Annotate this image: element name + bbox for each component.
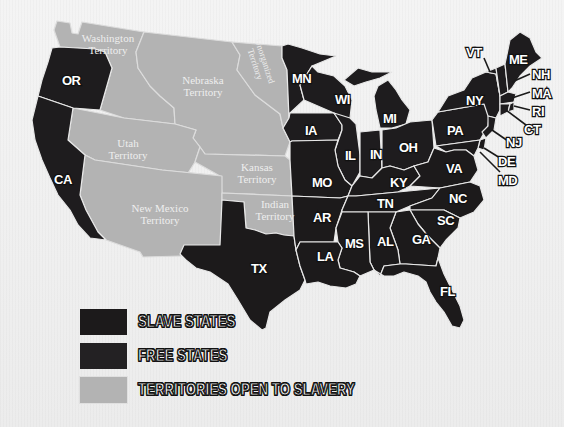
legend-item-territories: TERRITORIES OPEN TO SLAVERY [80,373,416,407]
label-PA: PA [447,123,464,138]
label-SC: SC [437,213,455,228]
label-FL: FL [440,284,455,299]
label-TX: TX [251,261,267,276]
label-VT: VT [466,45,482,60]
label-CT: CT [524,122,541,137]
label-indian-territory: IndianTerritory [256,198,295,222]
label-MN: MN [292,71,311,86]
label-LA: LA [317,249,334,264]
label-ME: ME [509,52,528,67]
label-NH: NH [532,67,550,82]
label-WI: WI [335,92,350,107]
label-MO: MO [312,175,332,190]
label-IL: IL [345,148,356,163]
label-CA: CA [54,172,73,187]
label-kansas-territory: KansasTerritory [238,161,277,185]
label-AR: AR [313,210,332,225]
map-legend: SLAVE STATES FREE STATES TERRITORIES OPE… [80,305,416,407]
label-MD: MD [498,173,517,188]
legend-swatch-territories [80,377,127,403]
label-MI: MI [383,111,396,126]
label-MS: MS [345,236,364,251]
legend-label-free: FREE STATES [138,346,227,366]
legend-item-free-states: FREE STATES [80,339,416,373]
label-MA: MA [532,86,552,101]
state-MI[interactable] [344,68,410,128]
label-NJ: NJ [506,135,522,150]
label-AL: AL [377,234,394,249]
label-NC: NC [449,191,468,206]
legend-label-slave: SLAVE STATES [138,312,235,332]
legend-label-territories: TERRITORIES OPEN TO SLAVERY [138,380,355,400]
label-KY: KY [390,175,408,190]
label-VA: VA [446,161,463,176]
label-GA: GA [412,232,432,247]
label-IN: IN [370,147,382,162]
label-washington-territory: WashingtonTerritory [82,32,135,56]
legend-item-slave-states: SLAVE STATES [80,305,416,339]
label-RI: RI [532,104,544,119]
legend-swatch-slave [80,309,127,335]
label-OH: OH [399,140,418,155]
label-NY: NY [466,93,484,108]
label-DE: DE [498,154,516,169]
label-IA: IA [305,123,318,138]
legend-swatch-free [80,343,127,369]
label-TN: TN [377,196,393,211]
label-nebraska-territory: NebraskaTerritory [182,74,224,98]
label-OR: OR [62,73,82,88]
